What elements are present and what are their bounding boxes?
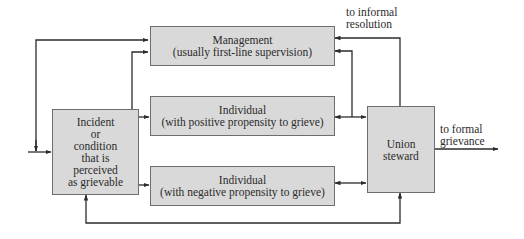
individual-negative-box: Individual (with negative propensity to … [150, 166, 335, 206]
management-subtitle: (usually first-line supervision) [173, 46, 312, 58]
positive-to-management-arrow [335, 51, 352, 117]
individual-positive-box: Individual (with positive propensity to … [150, 96, 335, 136]
informal-label-line-1: to informal [346, 6, 397, 18]
individual-positive-title: Individual [219, 104, 266, 116]
management-title: Management [212, 34, 272, 46]
union-steward-box: Union steward [367, 106, 435, 193]
union-steward-line-2: steward [383, 150, 419, 162]
incident-line-4: that is [82, 152, 110, 164]
individual-positive-subtitle: (with positive propensity to grieve) [161, 116, 323, 128]
incident-to-management-arrow [132, 52, 148, 117]
formal-label-line-1: to formal [440, 123, 485, 135]
individual-negative-subtitle: (with negative propensity to grieve) [160, 186, 325, 198]
formal-grievance-label: to formal grievance [440, 123, 485, 147]
incident-line-5: perceived [73, 164, 118, 176]
informal-label-line-2: resolution [346, 18, 397, 30]
grievance-flow-diagram: Management (usually first-line supervisi… [0, 0, 524, 239]
informal-resolution-arrow [335, 38, 400, 106]
individual-negative-title: Individual [219, 174, 266, 186]
incident-box: Incident or condition that is perceived … [52, 109, 139, 195]
union-steward-line-1: Union [387, 138, 416, 150]
management-box: Management (usually first-line supervisi… [150, 26, 335, 66]
incident-line-3: condition [74, 140, 117, 152]
incident-line-1: Incident [77, 116, 115, 128]
formal-label-line-2: grievance [440, 135, 485, 147]
informal-resolution-label: to informal resolution [346, 6, 397, 30]
incident-line-2: or [91, 128, 101, 140]
incident-line-6: as grievable [68, 176, 123, 188]
